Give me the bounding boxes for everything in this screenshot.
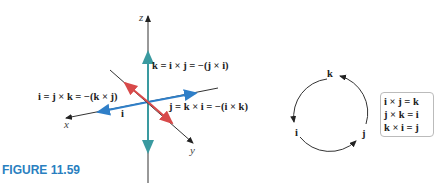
rule-line: j × k = i [384,108,430,121]
figure-label: FIGURE 11.59 [2,163,80,177]
i-vector-label: i [121,108,124,119]
neg-j-vector [125,83,148,102]
k-equation: k = i × j = −(j × i) [152,60,229,71]
z-axis-label: z [139,11,143,23]
rule-line: i × j = k [384,95,430,108]
cycle-arc-i-to-j [300,137,356,151]
cycle-i-label: i [295,127,298,138]
cycle-k-label: k [327,68,333,79]
i-equation: i = j × k = −(k × j) [38,91,118,102]
cycle-arc-j-to-k [340,76,368,124]
x-axis-label: x [64,118,69,130]
rule-line: k × i = j [384,121,430,134]
cycle-j-label: j [362,128,366,139]
cycle-arc-k-to-i [294,79,327,122]
j-equation: j = k × i = −(i × k) [169,101,248,112]
y-axis-label: y [190,144,195,156]
cross-product-rules-box: i × j = k j × k = i k × i = j [380,92,434,137]
